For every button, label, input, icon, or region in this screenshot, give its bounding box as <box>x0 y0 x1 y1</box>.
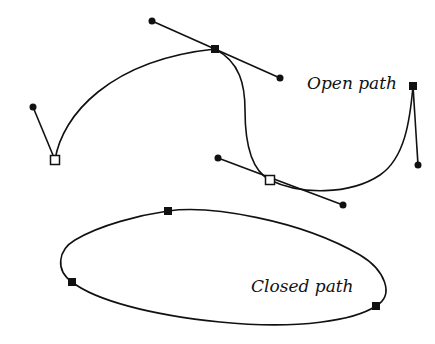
open-path-group <box>33 21 418 205</box>
anchor-point-selected[interactable] <box>68 278 76 286</box>
open-path-curve <box>55 49 413 191</box>
closed-path-group <box>61 207 386 325</box>
anchor-point-selected[interactable] <box>164 207 172 215</box>
handle-point[interactable] <box>340 202 347 209</box>
anchor-point-selected[interactable] <box>211 45 219 53</box>
handle-point[interactable] <box>415 162 422 169</box>
handle-point[interactable] <box>215 155 222 162</box>
handle-line <box>33 107 55 160</box>
handle-line <box>413 86 418 165</box>
anchor-point-unselected[interactable] <box>51 156 60 165</box>
open-path-label: Open path <box>307 73 397 93</box>
handle-line <box>218 158 343 205</box>
handle-points <box>30 18 422 209</box>
handle-point[interactable] <box>149 18 156 25</box>
handle-point[interactable] <box>30 104 37 111</box>
anchor-point-selected[interactable] <box>372 302 380 310</box>
closed-path-label: Closed path <box>251 276 354 296</box>
anchor-point-selected[interactable] <box>409 82 417 90</box>
handle-point[interactable] <box>277 75 284 82</box>
closed-path-curve <box>61 210 386 325</box>
anchor-point-unselected[interactable] <box>266 176 275 185</box>
bezier-diagram <box>0 0 435 344</box>
